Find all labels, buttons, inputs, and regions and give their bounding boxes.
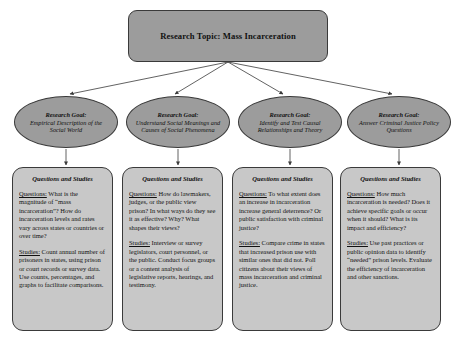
questions-paragraph: Questions: What is the magnitude of “mas… <box>19 190 106 241</box>
studies-paragraph: Studies: Interview or survey legislators… <box>129 239 216 290</box>
research-topic-box: Research Topic: Mass Incarceration <box>128 10 328 62</box>
research-goal-heading: Research Goal: <box>157 111 198 118</box>
research-goal-ellipse-4: Research Goal: Answer Criminal Justice P… <box>347 96 451 148</box>
studies-paragraph: Studies: Use past practices or public op… <box>347 239 434 281</box>
research-goal-heading: Research Goal: <box>378 111 419 118</box>
studies-text: Compare crime in states that increased p… <box>239 239 325 288</box>
questions-studies-title: Questions and Studies <box>19 175 106 182</box>
questions-studies-box-1: Questions and Studies Questions: What is… <box>12 167 113 331</box>
questions-studies-box-4: Questions and Studies Questions: How muc… <box>340 167 441 331</box>
questions-studies-title: Questions and Studies <box>129 175 216 182</box>
questions-text: What is the magnitude of “mass incarcera… <box>19 190 104 239</box>
research-design-diagram: Research Topic: Mass Incarceration Resea… <box>0 0 452 341</box>
studies-lead: Studies: <box>239 239 260 246</box>
questions-lead: Questions: <box>347 190 375 197</box>
questions-paragraph: Questions: How much incarceration is nee… <box>347 190 434 232</box>
studies-paragraph: Studies: Compare crime in states that in… <box>239 239 326 290</box>
research-goal-ellipse-3: Research Goal: Identify and Test Causal … <box>238 96 342 148</box>
studies-lead: Studies: <box>129 239 150 246</box>
questions-paragraph: Questions: How do lawmakers, judges, or … <box>129 190 216 232</box>
research-goal-heading: Research Goal: <box>269 111 310 118</box>
research-goal-text: Understand Social Meanings and Causes of… <box>134 119 222 133</box>
questions-studies-box-3: Questions and Studies Questions: To what… <box>232 167 333 331</box>
questions-lead: Questions: <box>19 190 47 197</box>
questions-studies-title: Questions and Studies <box>239 175 326 182</box>
research-goal-text: Empirical Description of the Social Worl… <box>22 119 110 133</box>
research-topic-label: Research Topic: Mass Incarceration <box>160 31 296 41</box>
questions-paragraph: Questions: To what extent does an increa… <box>239 190 326 232</box>
studies-lead: Studies: <box>19 248 40 255</box>
research-goal-text: Identify and Test Causal Relationships a… <box>246 119 334 133</box>
research-goal-ellipse-2: Research Goal: Understand Social Meaning… <box>126 96 230 148</box>
questions-lead: Questions: <box>129 190 157 197</box>
questions-studies-title: Questions and Studies <box>347 175 434 182</box>
studies-lead: Studies: <box>347 239 368 246</box>
studies-text: Interview or survey legislators, court p… <box>129 239 215 288</box>
studies-paragraph: Studies: Count annual number of prisoner… <box>19 248 106 290</box>
questions-lead: Questions: <box>239 190 267 197</box>
research-goal-text: Answer Criminal Justice Policy Questions <box>355 119 443 133</box>
questions-studies-box-2: Questions and Studies Questions: How do … <box>122 167 223 331</box>
research-goal-heading: Research Goal: <box>45 111 86 118</box>
research-goal-ellipse-1: Research Goal: Empirical Description of … <box>14 96 118 148</box>
